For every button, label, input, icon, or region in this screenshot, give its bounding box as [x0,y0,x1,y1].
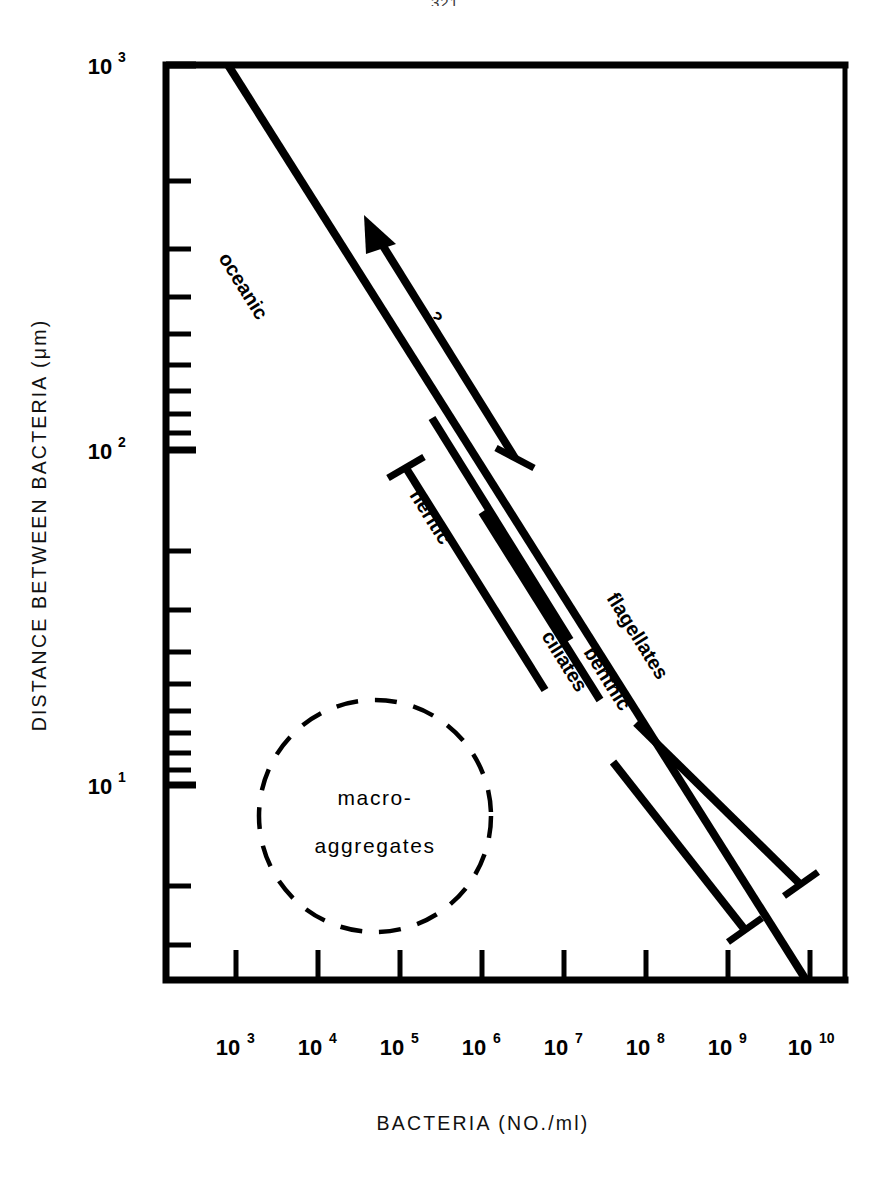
region-macro-aggregates: macro- aggregates [259,700,491,932]
y-axis-title: DISTANCE BETWEEN BACTERIA (μm) [28,319,50,732]
x-tick-label-1e3-exp: 3 [247,1030,255,1046]
x-tick-label-1e7-exp: 7 [575,1030,583,1046]
y-tick-label-100-base: 10 [88,439,112,464]
x-tick-label-1e6-base: 10 [462,1035,486,1060]
x-tick-label-1e5-base: 10 [380,1035,404,1060]
series-label-oceanic: oceanic [215,248,273,323]
series-lower-segment [482,512,600,700]
macro-aggregates-label-line1: macro- [338,786,413,809]
figure-page: 321 [0,0,890,1188]
lower-segment-line [482,512,600,700]
x-tick-label-1e9-exp: 9 [739,1030,747,1046]
oceanic-arrowhead [364,215,396,254]
x-axis-ticks [236,950,810,980]
series-oceanic: oceanic ? [215,215,534,468]
series-label-neritic: neritic [406,485,456,548]
macro-aggregates-label-line2: aggregates [314,834,435,857]
y-tick-labels: 10 3 10 2 10 1 [88,49,126,799]
y-tick-label-10-exp: 1 [118,769,126,785]
ciliates-end-cap [728,918,762,942]
x-tick-label-1e10-exp: 10 [819,1030,835,1046]
y-axis-ticks [166,65,196,945]
x-tick-label-1e4-exp: 4 [329,1030,337,1046]
benthic-line [636,723,800,884]
x-tick-label-1e8-base: 10 [626,1035,650,1060]
x-tick-label-1e10-base: 10 [788,1035,812,1060]
oceanic-line [375,233,515,458]
macro-aggregates-dashed-circle [259,700,491,932]
x-tick-label-1e3-base: 10 [216,1035,240,1060]
bacteria-distance-chart: 10 3 10 2 10 1 10 3 10 4 10 5 10 6 10 7 … [0,0,890,1188]
plot-frame [166,65,845,980]
x-tick-label-1e6-exp: 6 [493,1030,501,1046]
y-tick-label-10-base: 10 [88,774,112,799]
x-tick-label-1e9-base: 10 [708,1035,732,1060]
y-tick-label-1000-base: 10 [88,54,112,79]
x-tick-labels: 10 3 10 4 10 5 10 6 10 7 10 8 10 9 10 10 [216,1030,835,1060]
x-tick-label-1e4-base: 10 [298,1035,322,1060]
x-axis-title: BACTERIA (NO./ml) [377,1112,590,1134]
axis-frame-lines [166,65,845,980]
x-tick-label-1e5-exp: 5 [411,1030,419,1046]
y-tick-label-100-exp: 2 [118,434,126,450]
x-tick-label-1e7-base: 10 [544,1035,568,1060]
x-tick-label-1e8-exp: 8 [657,1030,665,1046]
y-tick-label-1000-exp: 3 [118,49,126,65]
